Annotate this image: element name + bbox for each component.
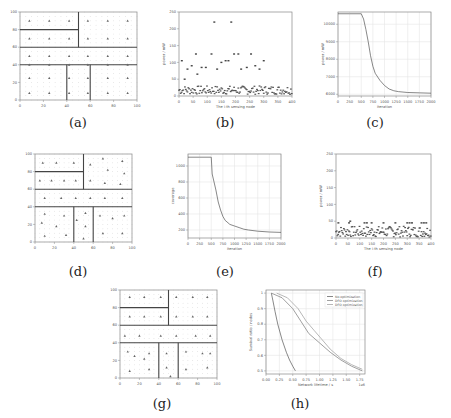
x-tick-label: 1750 xyxy=(415,100,425,104)
highlight-point xyxy=(237,53,239,54)
sensor-node-marker xyxy=(201,352,203,354)
x-tick-label: 0 xyxy=(178,100,181,104)
x-tick-label: 300 xyxy=(260,100,268,104)
highlight-point xyxy=(383,222,385,223)
highlight-point xyxy=(349,221,351,222)
highlight-point xyxy=(240,68,242,69)
sensor-node-marker xyxy=(185,368,187,370)
x-tick-label: 1000 xyxy=(380,100,390,104)
sensor-node-marker xyxy=(41,221,43,223)
x-tick-label: 0 xyxy=(335,242,338,246)
highlight-point xyxy=(233,53,235,54)
sensor-node-marker xyxy=(104,182,106,184)
highlight-point xyxy=(371,222,373,223)
highlight-point xyxy=(227,60,229,61)
sensor-node-marker xyxy=(111,217,113,219)
x-tick-label: 200 xyxy=(380,242,388,246)
sensor-node-marker xyxy=(73,162,75,164)
sensor-node-marker xyxy=(63,214,65,216)
panel-a: 020406080100020406080100 xyxy=(10,10,140,110)
sensor-node-marker xyxy=(28,92,30,94)
sensor-node-marker xyxy=(68,55,70,57)
y-tick-label: 150 xyxy=(326,186,334,190)
y-tick-label: 10000 xyxy=(324,22,336,26)
highlight-point xyxy=(406,222,408,223)
highlight-point xyxy=(216,68,218,69)
sensor-node-marker xyxy=(87,55,89,57)
x-tick-label: 20 xyxy=(41,104,46,108)
sensor-node-marker xyxy=(63,179,65,181)
sensor-node-marker xyxy=(126,37,128,39)
y-tick-label: 80 xyxy=(112,306,117,310)
x-tick-label: 100 xyxy=(129,246,137,250)
sensor-node-marker xyxy=(160,296,162,298)
sensor-node-marker xyxy=(126,77,128,79)
sensor-node-marker xyxy=(185,350,187,352)
y-tick-label: 20 xyxy=(27,223,32,227)
x-tick-label: 150 xyxy=(368,242,376,246)
caption-c: (c) xyxy=(345,115,405,130)
sensor-node-marker xyxy=(126,55,128,57)
x-tick-label: 0 xyxy=(34,246,37,250)
x-tick-label: 500 xyxy=(358,100,366,104)
sensor-node-marker xyxy=(44,197,46,199)
sensor-node-marker xyxy=(209,352,211,354)
highlight-point xyxy=(263,60,265,61)
sensor-node-marker xyxy=(107,92,109,94)
sensor-node-marker xyxy=(133,355,135,357)
x-tick-label: 0.50 xyxy=(289,378,298,382)
panel-f: 050100150200250300350400050100150200250T… xyxy=(322,152,434,252)
y-axis-label: power / mW xyxy=(319,185,323,207)
caption-d: (d) xyxy=(48,264,108,279)
sensor-node-marker xyxy=(165,352,167,354)
sensor-node-marker xyxy=(175,315,177,317)
highlight-point xyxy=(423,222,425,223)
y-tick-label: 100 xyxy=(10,10,18,14)
highlight-point xyxy=(201,67,203,68)
panel-e: 0250500750100012501500175020002004006008… xyxy=(172,152,284,252)
line-plot-c: 0250500750100012501500175020006000700080… xyxy=(322,10,434,110)
sensor-node-marker xyxy=(192,296,194,298)
y-tick-label: 20 xyxy=(112,359,117,363)
scatter-points xyxy=(178,21,293,95)
highlight-point xyxy=(409,222,411,223)
highlight-point xyxy=(196,73,198,74)
legend: No optimizationDFO optimizationDFO optim… xyxy=(325,293,363,307)
sensor-node-marker xyxy=(28,77,30,79)
sensor-node-marker xyxy=(68,92,70,94)
axes: 0250500750100012501500175020006000700080… xyxy=(321,12,436,109)
sensor-node-marker xyxy=(160,335,162,337)
x-tick-label: 1250 xyxy=(242,242,252,246)
y-axis-label: coverage xyxy=(171,187,175,204)
y-tick-label: 40 xyxy=(12,63,17,67)
caption-e: (e) xyxy=(195,264,255,279)
y-tick-label: 1 xyxy=(261,291,263,295)
y-tick-label: 80 xyxy=(12,28,17,32)
highlight-point xyxy=(186,68,188,69)
caption-h: (h) xyxy=(270,396,330,411)
highlight-point xyxy=(220,62,222,63)
highlight-point xyxy=(213,21,215,22)
x-tick-label: 750 xyxy=(369,100,377,104)
highlight-point xyxy=(366,222,368,223)
x-tick-label: 40 xyxy=(157,382,162,386)
x-tick-label: 50 xyxy=(191,100,196,104)
sensor-node-marker xyxy=(55,162,57,164)
sensor-node-marker xyxy=(206,296,208,298)
sensor-node-marker xyxy=(129,370,131,372)
legend-entry: DFO optimization xyxy=(335,303,363,307)
x-tick-label: 0 xyxy=(19,104,22,108)
sensor-node-marker xyxy=(138,335,140,337)
sensor-node-marker xyxy=(206,315,208,317)
y-tick-label: 100 xyxy=(110,288,118,292)
highlight-point xyxy=(230,21,232,22)
sensor-node-marker xyxy=(87,77,89,79)
y-tick-label: 100 xyxy=(169,61,177,65)
y-tick-label: 9000 xyxy=(326,40,336,44)
highlight-point xyxy=(184,79,186,80)
x-tick-label: 350 xyxy=(416,242,424,246)
sensor-node-marker xyxy=(60,197,62,199)
axes: 0250500750100012501500175020002004006008… xyxy=(171,154,286,251)
x-tick-label: 1500 xyxy=(403,100,413,104)
panel-d: 020406080100020406080100 xyxy=(25,152,135,252)
